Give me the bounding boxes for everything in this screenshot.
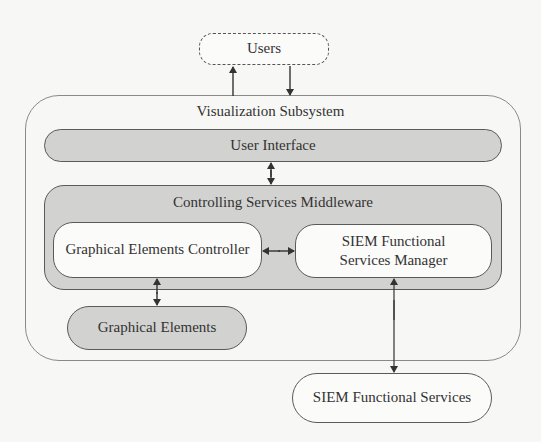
users-label: Users: [247, 39, 281, 59]
visualization-subsystem-label: Visualization Subsystem: [0, 103, 541, 120]
siem-functional-services-label: SIEM Functional Services: [313, 388, 471, 408]
user-interface-label: User Interface: [230, 136, 315, 156]
siem-functional-services-node: SIEM Functional Services: [292, 373, 492, 423]
graphical-elements-controller-node: Graphical Elements Controller: [53, 222, 262, 278]
graphical-elements-label: Graphical Elements: [98, 318, 217, 338]
sfsm-label-line2: Services Manager: [340, 251, 448, 271]
users-node: Users: [199, 33, 329, 65]
graphical-elements-controller-label: Graphical Elements Controller: [65, 240, 249, 260]
sfsm-label-line1: SIEM Functional: [342, 232, 446, 252]
siem-functional-services-manager-node: SIEM Functional Services Manager: [295, 224, 492, 278]
user-interface-node: User Interface: [44, 129, 502, 162]
graphical-elements-node: Graphical Elements: [67, 306, 247, 350]
middleware-label: Controlling Services Middleware: [44, 194, 502, 211]
